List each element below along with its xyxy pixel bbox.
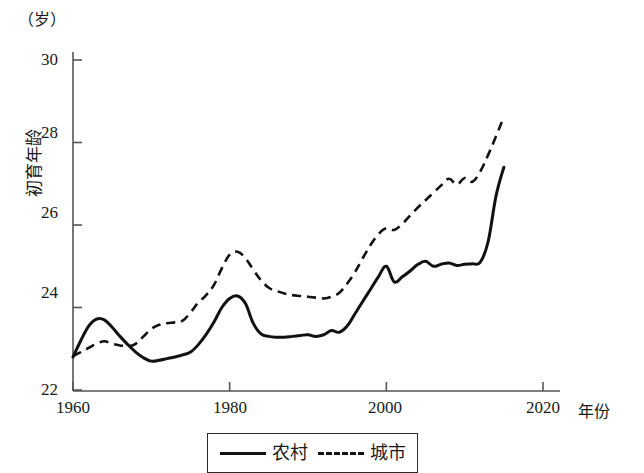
legend-label-rural: 农村 [272, 444, 308, 462]
chart-legend: 农村 城市 [207, 433, 418, 473]
axis-lines [73, 52, 560, 391]
series-line-rural [73, 167, 504, 361]
legend-label-urban: 城市 [370, 444, 406, 462]
legend-solid-line-icon [220, 452, 266, 455]
x-tick-marks [73, 382, 543, 391]
series-line-urban [73, 117, 504, 356]
legend-item-rural: 农村 [220, 444, 308, 462]
legend-item-urban: 城市 [318, 444, 406, 462]
legend-dashed-line-icon [318, 452, 364, 455]
